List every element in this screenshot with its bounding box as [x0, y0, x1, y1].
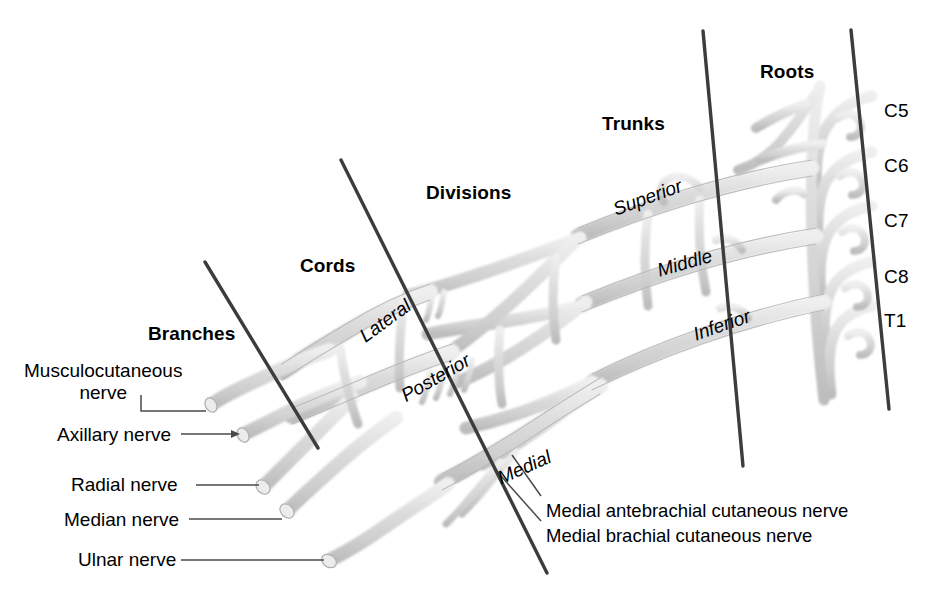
root-label-c5: C5 [884, 100, 909, 122]
root-label-t1: T1 [884, 310, 907, 332]
section-label-trunks: Trunks [602, 113, 665, 135]
section-label-branches: Branches [148, 323, 235, 345]
branch-label-ulnar: Ulnar nerve [78, 549, 176, 571]
branch-label-median: Median nerve [64, 509, 179, 531]
root-label-c6: C6 [884, 155, 909, 177]
branch-label-musculocutaneous-line1: Musculocutaneous [24, 360, 182, 382]
branch-median [288, 418, 396, 510]
branch-label-musculocutaneous: Musculocutaneous nerve [24, 360, 182, 405]
branch-label-radial: Radial nerve [71, 474, 178, 496]
branch-label-axillary: Axillary nerve [57, 424, 171, 446]
branch-label-medial-antebrachial-cutaneous: Medial antebrachial cutaneous nerve [546, 500, 848, 522]
branch-label-medial-brachial-cutaneous: Medial brachial cutaneous nerve [546, 525, 812, 547]
root-label-c7: C7 [884, 210, 909, 232]
branch-ulnar [330, 484, 448, 560]
nerve-tract-group [212, 86, 872, 560]
section-label-cords: Cords [300, 255, 355, 277]
branch-label-musculocutaneous-line2: nerve [24, 382, 182, 404]
section-label-roots: Roots [760, 61, 814, 83]
root-label-c8: C8 [884, 266, 909, 288]
section-label-divisions: Divisions [426, 182, 511, 204]
brachial-plexus-figure: Branches Cords Divisions Trunks Roots C5… [0, 0, 935, 596]
